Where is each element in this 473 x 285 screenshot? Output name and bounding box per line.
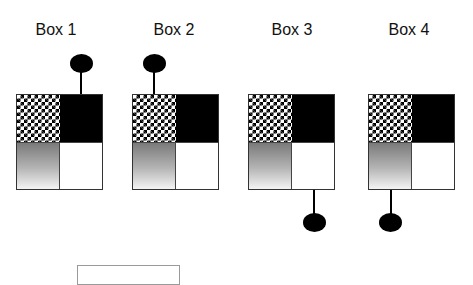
black-cell: [412, 95, 455, 142]
lollipop-stem: [153, 70, 155, 95]
checkerboard-cell: [249, 95, 292, 142]
black-cell: [60, 95, 103, 142]
black-cell: [292, 95, 335, 142]
white-cell: [60, 142, 103, 189]
empty-answer-box: [77, 265, 180, 285]
box-3-label: Box 3: [272, 21, 313, 39]
gradient-cell: [249, 142, 292, 189]
white-cell: [292, 142, 335, 189]
box-4-label: Box 4: [389, 21, 430, 39]
white-cell: [412, 142, 455, 189]
gradient-cell: [133, 142, 176, 189]
box-1-label: Box 1: [36, 21, 77, 39]
lollipop-head-icon: [379, 213, 402, 232]
box-1: [16, 94, 103, 190]
lollipop-stem: [80, 70, 82, 95]
lollipop-head-icon: [303, 213, 326, 232]
gradient-cell: [17, 142, 60, 189]
box-2-label: Box 2: [154, 21, 195, 39]
gradient-cell: [369, 142, 412, 189]
checkerboard-cell: [17, 95, 60, 142]
box-4: [368, 94, 455, 190]
box-3: [248, 94, 335, 190]
checkerboard-cell: [133, 95, 176, 142]
box-2: [132, 94, 219, 190]
white-cell: [176, 142, 219, 189]
black-cell: [176, 95, 219, 142]
checkerboard-cell: [369, 95, 412, 142]
